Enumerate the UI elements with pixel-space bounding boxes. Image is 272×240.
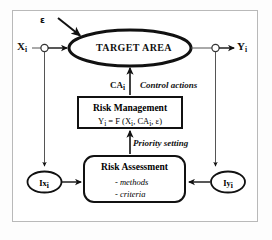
epsilon-label: ε bbox=[40, 16, 45, 25]
control-actions-symbol-sub: i bbox=[123, 83, 125, 92]
output-label-y: Yi bbox=[237, 41, 247, 53]
risk-management-box: Risk Management Yi = F (Xi, CAi, ε) bbox=[77, 96, 183, 129]
priority-setting-label: Priority setting bbox=[133, 139, 188, 148]
output-indicator-label-sub: i bbox=[231, 181, 233, 190]
control-actions-symbol-main: CA bbox=[110, 80, 123, 90]
risk-management-title: Risk Management bbox=[79, 103, 181, 113]
input-indicator-label-main: Ix bbox=[39, 178, 47, 188]
risk-assessment-item: - methods bbox=[115, 177, 148, 187]
formula-mid2: , CA bbox=[133, 116, 149, 126]
risk-assessment-box: Risk Assessment - methods - criteria bbox=[83, 155, 186, 203]
output-indicator-label: Iyi bbox=[211, 178, 245, 190]
input-label-x: Xi bbox=[17, 41, 27, 53]
output-label-y-sub: i bbox=[245, 45, 247, 54]
epsilon-arrow bbox=[58, 18, 80, 36]
risk-assessment-title: Risk Assessment bbox=[85, 162, 184, 172]
formula-tail: , ε) bbox=[151, 116, 162, 126]
output-junction-node bbox=[212, 44, 219, 51]
risk-assessment-item: - criteria bbox=[115, 189, 145, 199]
output-label-y-main: Y bbox=[237, 40, 245, 52]
risk-management-formula: Yi = F (Xi, CAi, ε) bbox=[79, 116, 181, 128]
diagram-canvas: ε Xi Yi TARGET AREA CAi Control actions … bbox=[0, 0, 272, 240]
input-junction-node bbox=[41, 44, 48, 51]
control-actions-label: Control actions bbox=[140, 81, 197, 90]
input-indicator-label-sub: i bbox=[47, 181, 49, 190]
control-actions-symbol: CAi bbox=[110, 81, 125, 91]
output-indicator-label-main: Iy bbox=[223, 178, 231, 188]
input-label-x-sub: i bbox=[25, 45, 27, 54]
target-area-label: TARGET AREA bbox=[96, 43, 172, 53]
input-label-x-main: X bbox=[17, 40, 25, 52]
formula-mid: = F (X bbox=[106, 116, 131, 126]
input-indicator-label: Ixi bbox=[27, 178, 61, 190]
